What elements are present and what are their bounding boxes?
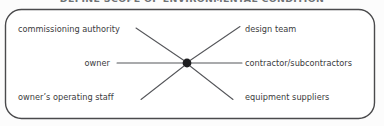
figure-canvas: DEFINE SCOPE OF ENVIRONMENTAL CONDITION … bbox=[0, 0, 384, 126]
node-label-equipment-suppliers: equipment suppliers bbox=[245, 92, 329, 102]
node-label-owner: owner bbox=[18, 58, 110, 68]
node-label-design-team: design team bbox=[245, 24, 296, 34]
node-label-commissioning-authority: commissioning authority bbox=[18, 24, 120, 34]
central-node bbox=[183, 59, 192, 68]
node-label-owners-operating-staff: owner’s operating staff bbox=[18, 92, 114, 102]
node-label-contractor-subcontractors: contractor/subcontractors bbox=[245, 58, 352, 68]
